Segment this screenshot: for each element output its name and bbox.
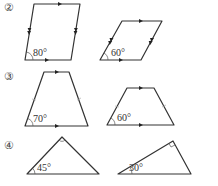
problem-label-2: ②: [4, 1, 14, 14]
angle-label: 80°: [33, 47, 47, 58]
triangle-30: 30°: [118, 141, 191, 174]
problem-label-4: ④: [4, 139, 14, 152]
parallelogram-80: 80°: [25, 2, 80, 62]
triangle-45: 45°: [27, 137, 99, 174]
parallel-arrow-icon: [139, 86, 143, 90]
angle-label: 45°: [37, 162, 51, 173]
parallel-arrow-icon: [119, 58, 123, 62]
parallelogram-60: 60°: [100, 19, 162, 62]
angle-label: 30°: [129, 162, 143, 173]
angle-label: 60°: [111, 47, 125, 58]
problem-label-3: ③: [4, 70, 14, 83]
double-arrow-icon: [74, 31, 78, 35]
angle-label: 60°: [117, 112, 131, 123]
angle-label: 70°: [33, 113, 47, 124]
geometry-figures: ② 80° 60° ③ 70°: [0, 0, 218, 186]
double-arrow-icon: [27, 31, 31, 35]
trapezoid-70: 70°: [25, 70, 88, 128]
parallel-arrow-icon: [55, 70, 59, 74]
parallel-arrow-icon: [45, 58, 49, 62]
parallel-arrow-icon: [139, 123, 143, 127]
parallel-arrow-icon: [139, 19, 143, 23]
parallel-arrow-icon: [55, 124, 59, 128]
parallel-arrow-icon: [58, 2, 62, 6]
trapezoid-60: 60°: [107, 86, 174, 127]
